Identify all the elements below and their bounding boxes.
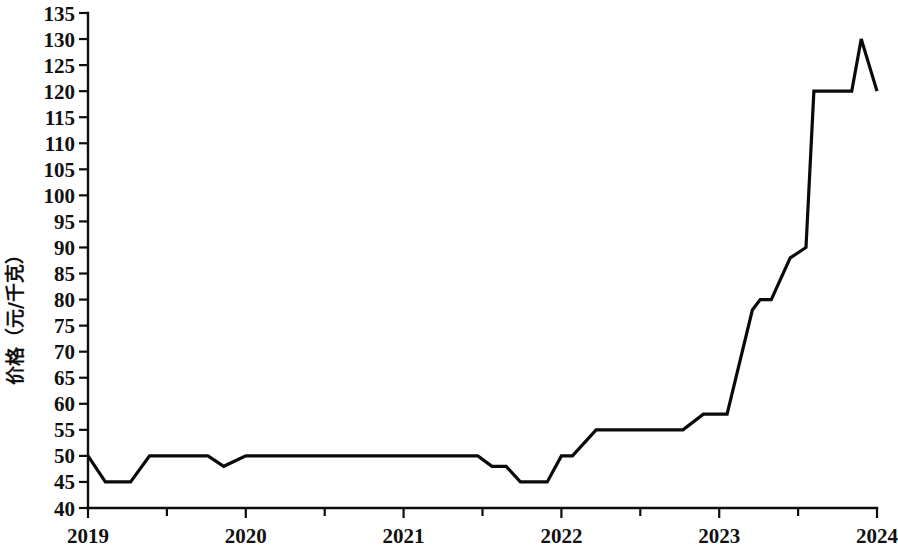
- y-tick-label: 60: [54, 392, 75, 416]
- x-tick-label: 2021: [383, 524, 425, 548]
- y-tick-label: 85: [54, 262, 75, 286]
- data-series-group: [88, 39, 877, 482]
- x-tick-label: 2019: [67, 524, 109, 548]
- y-tick-label: 90: [54, 236, 75, 260]
- price-line-chart: 价格（元/千克） 4045505560657075808590951001051…: [0, 0, 898, 553]
- y-axis-ticks: 4045505560657075808590951001051101151201…: [44, 2, 89, 521]
- chart-container: 价格（元/千克） 4045505560657075808590951001051…: [0, 0, 898, 553]
- y-tick-label: 50: [54, 444, 75, 468]
- y-tick-label: 115: [45, 106, 75, 130]
- y-tick-label: 80: [54, 288, 75, 312]
- y-axis-label-text: 价格（元/千克）: [4, 245, 26, 385]
- y-tick-label: 45: [54, 470, 75, 494]
- y-tick-label: 65: [54, 366, 75, 390]
- x-tick-label: 2023: [698, 524, 740, 548]
- y-tick-label: 125: [44, 54, 76, 78]
- y-tick-label: 40: [54, 497, 75, 521]
- x-tick-label: 2020: [225, 524, 267, 548]
- axis-lines: [88, 13, 877, 508]
- x-tick-label: 2022: [540, 524, 582, 548]
- price-series-line: [88, 39, 877, 482]
- y-tick-label: 70: [54, 340, 75, 364]
- y-tick-label: 120: [44, 80, 76, 104]
- y-tick-label: 100: [44, 184, 76, 208]
- x-axis-ticks: 201920202021202220232024: [67, 508, 898, 548]
- y-tick-label: 130: [44, 28, 76, 52]
- y-tick-label: 95: [54, 210, 75, 234]
- y-tick-label: 105: [44, 158, 76, 182]
- y-tick-label: 135: [44, 2, 76, 26]
- y-tick-label: 55: [54, 418, 75, 442]
- y-tick-label: 75: [54, 314, 75, 338]
- y-axis-label: 价格（元/千克）: [4, 245, 26, 385]
- y-tick-label: 110: [45, 132, 75, 156]
- x-tick-label: 2024: [856, 524, 898, 548]
